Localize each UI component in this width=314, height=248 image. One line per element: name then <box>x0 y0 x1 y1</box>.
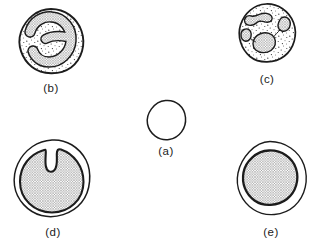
cell-a-drawing <box>142 97 190 145</box>
cell-a-figure <box>142 97 190 145</box>
cell-d-drawing <box>9 136 97 224</box>
cell-e-drawing <box>229 138 313 222</box>
cell-c-lobe-right <box>278 17 290 31</box>
cell-b-label: (b) <box>14 82 88 94</box>
cell-e-nucleus <box>243 150 297 204</box>
cell-c-figure <box>233 1 301 67</box>
cell-d-figure <box>9 136 97 224</box>
cell-d-label: (d) <box>9 226 97 238</box>
cell-a-membrane <box>147 100 185 139</box>
cell-c-label: (c) <box>233 73 301 85</box>
cell-c-lobe-left <box>241 29 251 41</box>
cell-e-figure <box>229 138 313 222</box>
figure-canvas: (b) (c) (a) (d) <box>0 0 314 248</box>
cell-b-drawing <box>14 6 88 76</box>
cell-c-lobe-bottom <box>253 33 275 53</box>
cell-a-label: (a) <box>142 145 190 157</box>
cell-c-drawing <box>233 1 301 67</box>
cell-b-figure <box>14 6 88 76</box>
cell-e-label: (e) <box>229 226 313 238</box>
